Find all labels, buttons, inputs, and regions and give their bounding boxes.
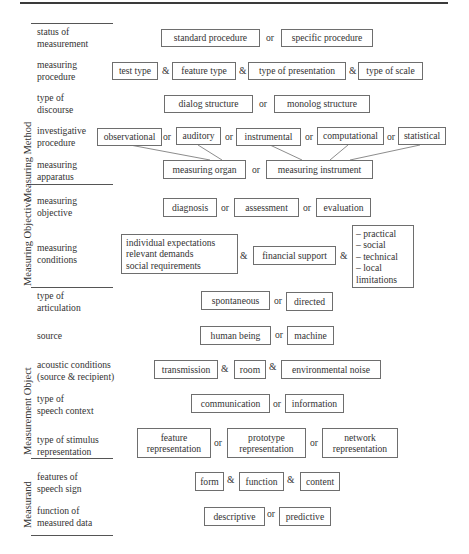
option-spontaneous: spontaneous	[201, 291, 270, 310]
option-monolog-structure: monolog structure	[274, 95, 370, 113]
operator-and: &	[240, 250, 247, 261]
operator-or: or	[303, 202, 311, 213]
option-standard-procedure: standard procedure	[161, 29, 260, 47]
operator-and: &	[227, 474, 234, 485]
option-observational: observational	[97, 128, 162, 146]
option-limitations: – practical – social – technical – local…	[352, 225, 414, 288]
operator-or: or	[252, 164, 260, 175]
operator-and: &	[239, 65, 246, 76]
option-machine: machine	[287, 326, 334, 345]
option-diagnosis: diagnosis	[163, 198, 217, 217]
operator-or: or	[305, 131, 313, 142]
operator-and: &	[221, 363, 228, 374]
option-statistical: statistical	[398, 127, 446, 145]
option-computational: computational	[317, 127, 384, 145]
option-auditory: auditory	[176, 127, 221, 145]
option-content: content	[300, 472, 340, 491]
option-test-type: test type	[112, 62, 158, 80]
option-individual-expectations: individual expectations relevant demands…	[121, 234, 238, 274]
option-directed: directed	[286, 292, 333, 311]
option-dialog-structure: dialog structure	[164, 95, 253, 113]
option-specific-procedure: specific procedure	[281, 29, 373, 47]
operator-or: or	[163, 131, 171, 142]
option-environmental-noise: environmental noise	[281, 360, 381, 379]
option-assessment: assessment	[234, 198, 299, 217]
operator-and: &	[162, 65, 169, 76]
option-type-of-scale: type of scale	[358, 62, 423, 80]
option-information: information	[285, 394, 344, 413]
option-measuring-organ: measuring organ	[163, 160, 246, 179]
option-network-representation: network representation	[322, 428, 398, 458]
operator-and: &	[340, 250, 347, 261]
operator-or: or	[221, 202, 229, 213]
operator-or: or	[275, 329, 283, 340]
operator-or: or	[310, 437, 318, 448]
option-descriptive: descriptive	[204, 507, 265, 526]
option-predictive: predictive	[279, 507, 331, 526]
option-communication: communication	[191, 394, 270, 413]
operator-or: or	[266, 32, 274, 43]
option-evaluation: evaluation	[316, 198, 371, 217]
operator-and: &	[287, 474, 294, 485]
option-human-being: human being	[200, 326, 271, 345]
operator-or: or	[267, 508, 275, 519]
option-transmission: transmission	[154, 360, 218, 379]
operator-or: or	[273, 398, 281, 409]
option-prototype-representation: prototype representation	[227, 428, 306, 458]
option-feature-representation: feature representation	[137, 428, 211, 458]
operator-and: &	[349, 65, 356, 76]
operator-or: or	[225, 131, 233, 142]
operator-or: or	[274, 295, 282, 306]
operator-and: &	[269, 361, 276, 372]
option-room: room	[234, 360, 266, 379]
operator-or: or	[259, 98, 267, 109]
option-financial-support: financial support	[253, 246, 336, 265]
option-measuring-instrument: measuring instrument	[266, 160, 373, 179]
option-function: function	[239, 472, 284, 491]
option-form: form	[195, 472, 224, 491]
operator-or: or	[214, 437, 222, 448]
option-type-of-presentation: type of presentation	[248, 62, 346, 80]
option-feature-type: feature type	[172, 62, 236, 80]
operator-or: or	[387, 131, 395, 142]
option-instrumental: instrumental	[236, 128, 301, 146]
